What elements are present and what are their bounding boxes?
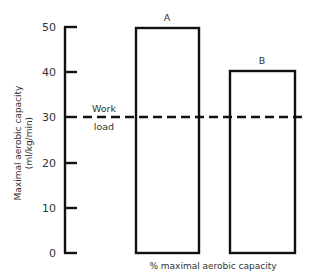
y-tick-labels: 50 40 30 20 10 0 bbox=[42, 21, 56, 260]
bar-a bbox=[136, 28, 199, 253]
y-tick-30: 30 bbox=[42, 111, 56, 124]
y-axis-title: Maximal aerobic capacity (ml/kg/min) bbox=[13, 85, 34, 201]
y-tick-50: 50 bbox=[42, 21, 56, 34]
x-axis-label: % maximal aerobic capacity bbox=[149, 261, 277, 271]
y-tick-0: 0 bbox=[49, 247, 56, 260]
bar-a-label: A bbox=[164, 12, 171, 23]
bar-b bbox=[230, 71, 295, 253]
work-load-label-line2: load bbox=[94, 121, 114, 132]
y-tick-40: 40 bbox=[42, 66, 56, 79]
bar-chart: Maximal aerobic capacity (ml/kg/min) 50 … bbox=[0, 0, 315, 276]
y-axis-units: (ml/kg/min) bbox=[24, 117, 34, 169]
y-tick-10: 10 bbox=[42, 202, 56, 215]
y-tick-20: 20 bbox=[42, 157, 56, 170]
y-axis-label: Maximal aerobic capacity bbox=[13, 85, 23, 201]
work-load-label-line1: Work bbox=[92, 103, 117, 114]
bar-b-label: B bbox=[259, 55, 266, 66]
